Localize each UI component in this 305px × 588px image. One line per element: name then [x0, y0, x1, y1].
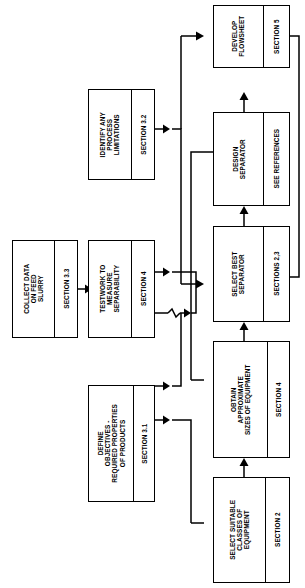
node-section-cell: SECTION 2 — [266, 478, 289, 582]
node-title-cell: COLLECT DATA ON FEED SLURRY — [13, 241, 55, 337]
node-section-cell: SECTION 4 — [132, 241, 154, 337]
node-develop-flowsheet[interactable]: DEVELOP FLOWSHEET SECTION 5 — [213, 5, 290, 68]
node-title: DESIGN SEPARATOR — [231, 139, 245, 179]
edge-sizes-to-select-best — [240, 322, 249, 341]
node-section: SECTION 4 — [275, 382, 282, 417]
node-testwork-separability[interactable]: TESTWORK TO MEASURE SEPARABILITY SECTION… — [88, 240, 155, 338]
edge-objectives-to-classes — [155, 416, 204, 524]
node-title-cell: DEVELOP FLOWSHEET — [214, 6, 264, 67]
node-title-cell: DEFINE OBJECTIVES - REQUIRED PROPERTIES … — [89, 386, 134, 501]
node-section-cell: SECTION 5 — [264, 6, 289, 67]
node-section: SECTIONS 2,3 — [273, 252, 280, 297]
node-section: SECTION 3.2 — [139, 114, 146, 154]
node-section: SECTION 3.3 — [62, 269, 69, 309]
node-title-cell: SELECT BEST SEPARATOR — [214, 227, 264, 321]
node-title: DEVELOP FLOWSHEET — [231, 16, 245, 57]
node-title: OBTAIN APPROXIMATE SIZES OF EQUIPMENT — [230, 364, 252, 435]
edge-objectives-to-select-best — [155, 313, 181, 391]
edge-select-best-to-design — [240, 206, 249, 226]
node-obtain-approximate-sizes[interactable]: OBTAIN APPROXIMATE SIZES OF EQUIPMENT SE… — [213, 341, 290, 458]
node-section-cell: SECTIONS 2,3 — [264, 227, 289, 321]
edge-design-to-sizes-feedback — [191, 152, 213, 380]
node-title-cell: TESTWORK TO MEASURE SEPARABILITY — [89, 241, 132, 337]
node-define-objectives[interactable]: DEFINE OBJECTIVES - REQUIRED PROPERTIES … — [88, 385, 155, 502]
edge-design-to-flowsheet — [240, 92, 249, 112]
flowchart-diagram: DEVELOP FLOWSHEET SECTION 5 DESIGN SEPAR… — [0, 0, 305, 588]
node-section-cell: SECTION 3.1 — [134, 386, 154, 501]
node-section: SEE REFERENCES — [273, 129, 280, 189]
node-section-cell: SECTION 3.3 — [55, 241, 77, 337]
node-title-cell: DESIGN SEPARATOR — [214, 113, 264, 205]
node-section-cell: SEE REFERENCES — [264, 113, 289, 205]
node-title-cell: SELECT SUITABLE CLASSES OF EQUIPMENT — [214, 478, 266, 582]
edge-trunk-to-select-best — [172, 272, 196, 313]
node-select-suitable-classes[interactable]: SELECT SUITABLE CLASSES OF EQUIPMENT SEC… — [213, 477, 290, 583]
node-title: SELECT SUITABLE CLASSES OF EQUIPMENT — [229, 500, 251, 560]
node-section: SECTION 4 — [139, 272, 146, 307]
node-section: SECTION 5 — [273, 19, 280, 54]
node-title-cell: OBTAIN APPROXIMATE SIZES OF EQUIPMENT — [214, 342, 268, 457]
node-title: IDENTIFY ANY PROCESS LIMITATIONS — [99, 112, 121, 157]
node-title: SELECT BEST SEPARATOR — [231, 251, 245, 296]
node-section: SECTION 3.1 — [140, 423, 147, 463]
node-section-cell: SECTION 4 — [268, 342, 289, 457]
node-design-separator[interactable]: DESIGN SEPARATOR SEE REFERENCES — [213, 112, 290, 206]
edge-classes-to-sizes — [240, 458, 249, 477]
edge-limitations-to-select-best — [155, 125, 204, 289]
node-title: COLLECT DATA ON FEED SLURRY — [23, 264, 45, 314]
node-title: TESTWORK TO MEASURE SEPARABILITY — [99, 265, 121, 313]
edge-trunk-to-flowsheet — [181, 32, 204, 130]
node-identify-process-limitations[interactable]: IDENTIFY ANY PROCESS LIMITATIONS SECTION… — [88, 89, 155, 180]
node-title-cell: IDENTIFY ANY PROCESS LIMITATIONS — [89, 90, 132, 179]
node-select-best-separator[interactable]: SELECT BEST SEPARATOR SECTIONS 2,3 — [213, 226, 290, 322]
node-title: DEFINE OBJECTIVES - REQUIRED PROPERTIES … — [97, 404, 126, 483]
edge-testwork-to-select-best — [155, 268, 191, 318]
node-section-cell: SECTION 3.2 — [132, 90, 154, 179]
node-collect-data-feed-slurry[interactable]: COLLECT DATA ON FEED SLURRY SECTION 3.3 — [12, 240, 78, 338]
node-section: SECTION 2 — [274, 513, 281, 548]
